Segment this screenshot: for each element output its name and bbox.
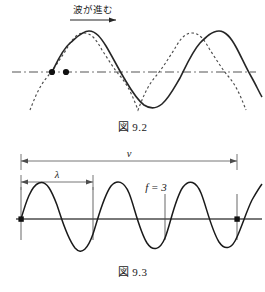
velocity-label: v	[127, 148, 132, 159]
wave-marker-dot	[49, 69, 55, 75]
figure-9-2-plot	[0, 0, 265, 118]
figure-9-3-caption: 図 9.3	[0, 263, 265, 279]
wave-marker-dot	[234, 216, 239, 221]
figure-9-2: 波が進む 図 9.2	[0, 0, 265, 142]
figure-sheet: 波が進む 図 9.2	[0, 0, 265, 292]
wave-solid-curve	[52, 31, 262, 108]
wave-solid-curve	[21, 182, 262, 251]
figure-9-3: v λ f = 3	[0, 142, 265, 292]
wavelength-label: λ	[54, 169, 60, 180]
wave-direction-text: 波が進む	[73, 4, 113, 15]
arrow-right-icon	[70, 17, 116, 22]
wave-marker-dot	[63, 69, 69, 75]
wave-marker-dot	[18, 216, 23, 221]
figure-caption-text: 図 9.2	[118, 121, 148, 133]
figure-9-3-plot: v λ f = 3	[0, 142, 265, 263]
figure-caption-text: 図 9.3	[118, 266, 148, 278]
wave-direction-label: 波が進む	[58, 2, 128, 16]
frequency-label: f = 3	[145, 181, 167, 193]
figure-9-2-caption: 図 9.2	[0, 118, 265, 134]
